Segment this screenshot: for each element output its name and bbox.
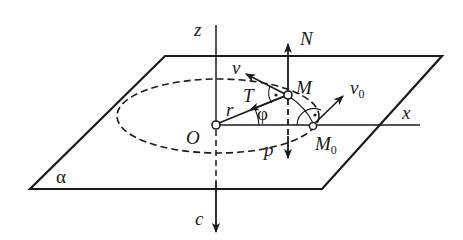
label-x-axis: x (402, 103, 410, 122)
vector-v0 (314, 96, 343, 124)
label-phi: φ (257, 104, 268, 123)
diagram-graphics (0, 0, 463, 240)
label-v0-sub: 0 (358, 87, 364, 101)
point-M (284, 91, 292, 99)
label-M0-main: M (315, 133, 331, 154)
right-angle-dot-M (274, 93, 277, 96)
label-c: c (195, 209, 203, 228)
point-M0 (309, 122, 316, 129)
point-O (212, 121, 220, 129)
label-M: M (296, 78, 312, 97)
trajectory-arc-M-M0 (290, 97, 313, 123)
right-angle-dot-M0 (313, 113, 316, 116)
mechanics-diagram: z N v M v0 T r φ x O p M0 α c (0, 0, 463, 240)
label-N: N (300, 29, 313, 48)
label-v0: v0 (350, 78, 364, 100)
right-angle-mark-M (269, 86, 272, 103)
label-M0-sub: 0 (331, 143, 337, 157)
label-r: r (226, 100, 233, 119)
label-M0: M0 (315, 134, 337, 156)
label-z-axis: z (194, 20, 201, 39)
label-O: O (186, 128, 200, 147)
label-alpha-plane: α (56, 167, 66, 186)
label-p: p (264, 140, 274, 159)
label-v: v (232, 58, 240, 77)
label-T: T (243, 86, 254, 105)
